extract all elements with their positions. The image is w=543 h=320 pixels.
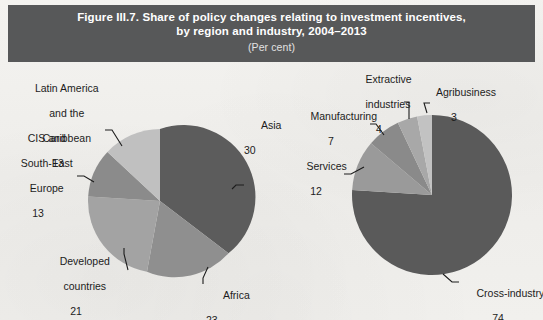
figure-page: Figure III.7. Share of policy changes re…: [0, 0, 543, 320]
pie-label-text: Developed: [60, 255, 110, 267]
pie-label-text: countries: [63, 280, 106, 292]
pie-label-text: Services: [307, 160, 347, 172]
pie-label-text: Cross-industry: [477, 287, 543, 299]
pie-label-value: 23: [206, 314, 252, 320]
pie-label-text: Extractive: [366, 73, 412, 85]
pie-label-value: 13: [0, 207, 76, 219]
pie-label-text: Europe: [30, 182, 64, 194]
pie-label-cis-south-east-europe: CIS and South-East Europe 13: [0, 120, 76, 244]
leader-line-cross-industry: [443, 274, 459, 282]
pie-label-asia: Asia 30: [244, 107, 284, 181]
pie-label-text: Latin America: [35, 82, 99, 94]
pie-label-text: Manufacturing: [311, 110, 378, 122]
pie-label-agribusiness: Agribusiness 3: [419, 74, 489, 148]
pie-label-text: industries: [366, 98, 411, 110]
figure-title-line-2: by region and industry, 2004–2013: [8, 24, 535, 38]
charts-container: Latin America and the Caribbean 13 CIS a…: [0, 62, 543, 320]
pie-label-value: 12: [289, 185, 343, 197]
figure-title-banner: Figure III.7. Share of policy changes re…: [8, 5, 535, 62]
pie-label-developed-countries: Developed countries 21: [32, 243, 120, 320]
pie-label-text: CIS and: [28, 132, 66, 144]
pie-label-value: 74: [459, 312, 537, 320]
pie-label-text: Agribusiness: [436, 86, 496, 98]
pie-label-cross-industry: Cross-industry 74: [459, 275, 537, 320]
pie-label-value: 3: [419, 111, 489, 123]
pie-label-africa: Africa 23: [206, 277, 252, 320]
pie-label-value: 21: [32, 305, 120, 317]
pie-label-text: and the: [49, 107, 84, 119]
figure-title-line-1: Figure III.7. Share of policy changes re…: [8, 10, 535, 24]
figure-subtitle: (Per cent): [8, 38, 535, 55]
pie-label-text: Africa: [223, 289, 250, 301]
pie-label-text: South-East: [21, 157, 73, 169]
pie-label-value: 7: [293, 135, 369, 147]
pie-label-text: Asia: [261, 119, 281, 131]
pie-label-value: 30: [244, 144, 284, 156]
pie-label-services: Services 12: [289, 148, 343, 222]
